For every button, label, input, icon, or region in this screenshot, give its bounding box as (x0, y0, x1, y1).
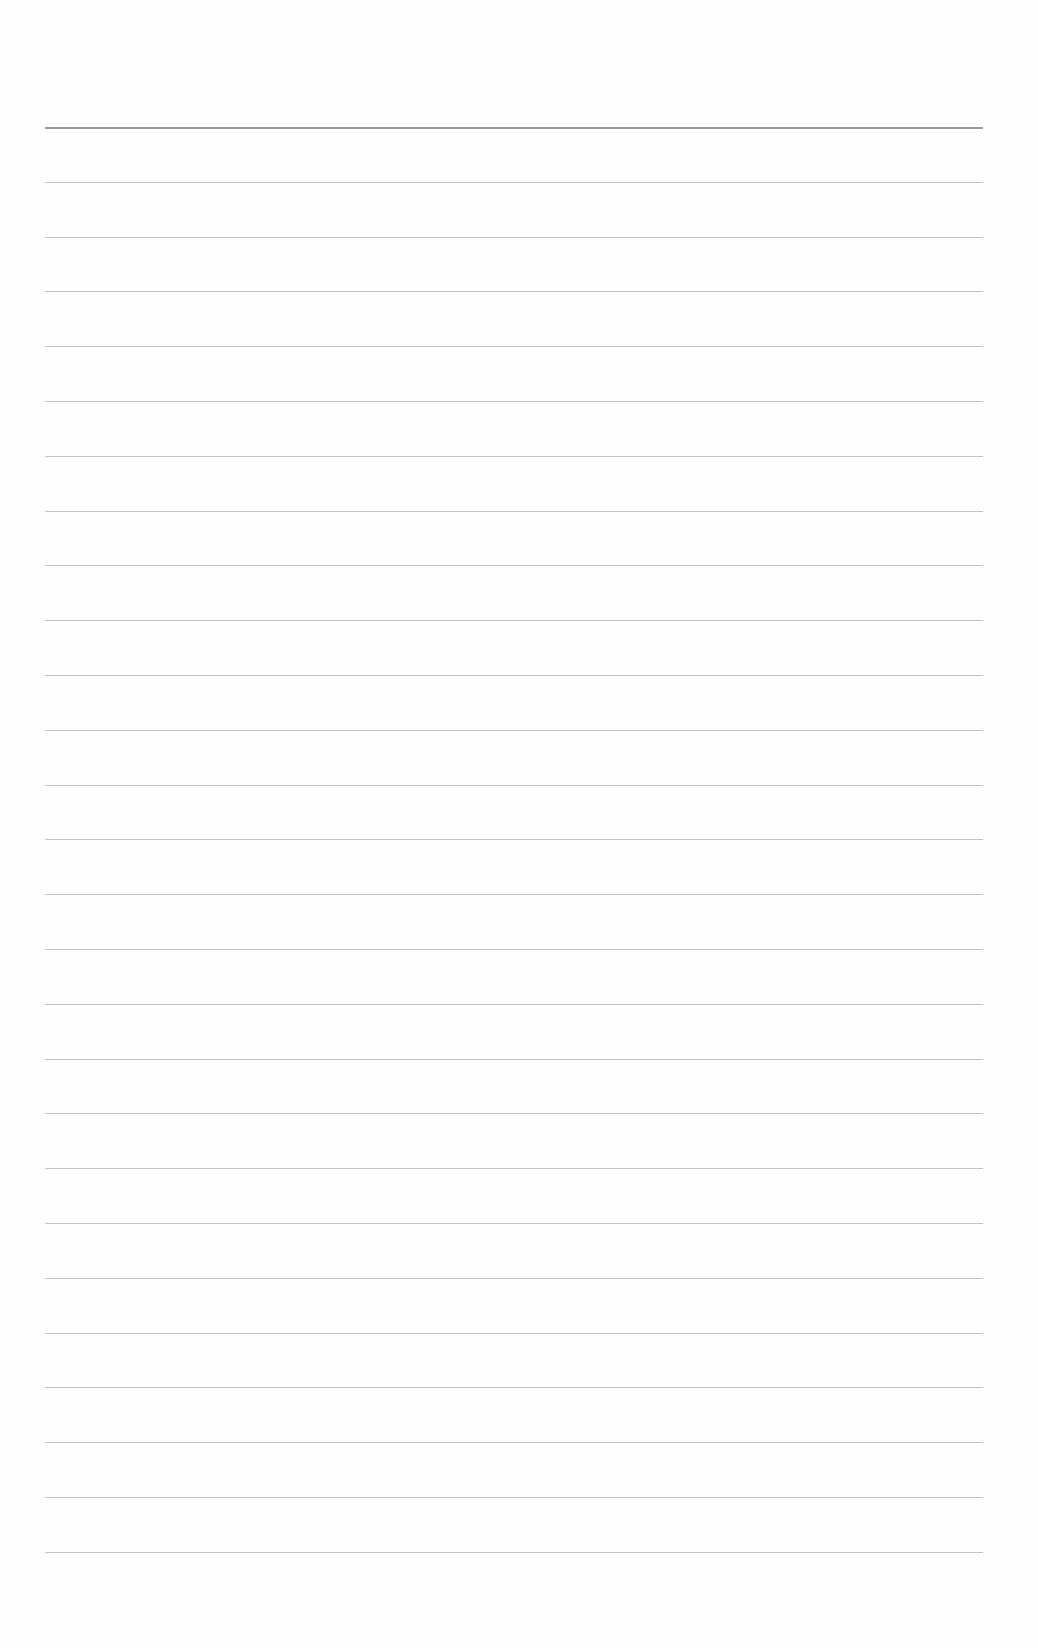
ruled-line (45, 1004, 983, 1005)
ruled-line (45, 456, 983, 457)
ruled-line (45, 401, 983, 402)
ruled-line (45, 1497, 983, 1498)
ruled-line (45, 730, 983, 731)
ruled-line (45, 949, 983, 950)
ruled-line (45, 1387, 983, 1388)
ruled-line (45, 1552, 983, 1553)
ruled-line (45, 237, 983, 238)
ruled-line (45, 565, 983, 566)
ruled-line (45, 1113, 983, 1114)
ruled-line (45, 346, 983, 347)
ruled-line (45, 839, 983, 840)
ruled-line (45, 1442, 983, 1443)
ruled-line (45, 511, 983, 512)
ruled-line (45, 620, 983, 621)
ruled-line (45, 1333, 983, 1334)
ruled-page (0, 0, 1038, 1648)
ruled-line (45, 1059, 983, 1060)
ruled-line (45, 675, 983, 676)
ruled-line (45, 1168, 983, 1169)
ruled-line (45, 785, 983, 786)
ruled-line (45, 127, 983, 129)
ruled-line (45, 1278, 983, 1279)
ruled-line (45, 291, 983, 292)
ruled-line (45, 182, 983, 183)
ruled-line (45, 1223, 983, 1224)
ruled-line (45, 894, 983, 895)
